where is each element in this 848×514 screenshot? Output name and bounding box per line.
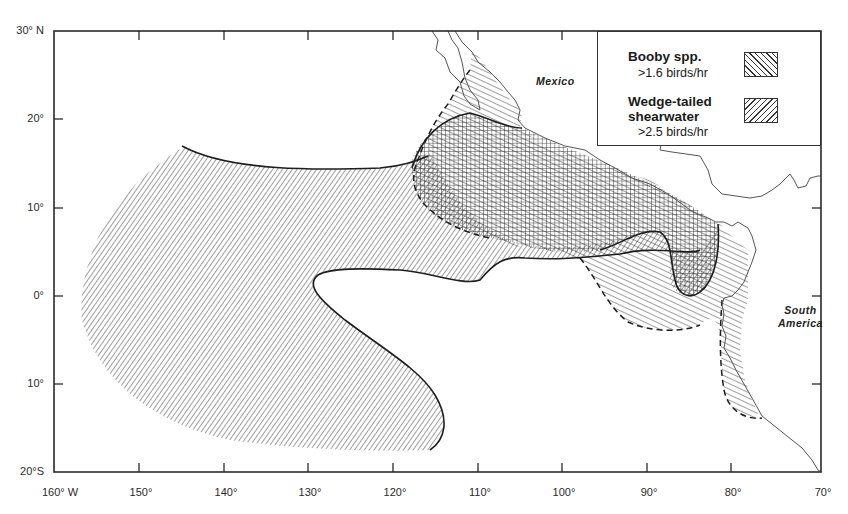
region-label-mexico: Mexico: [536, 75, 575, 88]
legend-shearwater-title-1: Wedge-tailed: [628, 94, 712, 109]
lon-label-100: 100°: [553, 486, 576, 498]
lon-label-80: 80°: [725, 486, 742, 498]
lon-label-140: 140°: [215, 486, 238, 498]
lon-label-70: 70°: [815, 486, 832, 498]
lat-label-10n: 10°: [0, 201, 44, 213]
lon-label-150: 150°: [130, 486, 153, 498]
lat-label-10s: 10°: [0, 377, 44, 389]
lon-label-130: 130°: [299, 486, 322, 498]
legend-booby-swatch: [744, 52, 778, 77]
legend-shearwater-swatch: [744, 98, 778, 123]
lon-label-110: 110°: [469, 486, 491, 498]
lat-label-30n: 30° N: [0, 24, 44, 36]
region-label-south-america: South America: [778, 304, 823, 330]
legend: Booby spp. >1.6 birds/hr Wedge-tailed sh…: [597, 31, 821, 146]
lon-label-120: 120°: [384, 486, 407, 498]
region-label-south-line1: South: [778, 304, 823, 317]
lat-label-0: 0°: [0, 289, 44, 301]
legend-booby-threshold: >1.6 birds/hr: [638, 66, 708, 80]
lat-label-20n: 20°: [0, 112, 44, 124]
region-label-south-line2: America: [778, 317, 823, 330]
lat-label-20s: 20°S: [0, 465, 44, 477]
legend-shearwater-threshold: >2.5 birds/hr: [638, 125, 708, 139]
lon-label-160w: 160° W: [42, 486, 78, 498]
legend-booby-title: Booby spp.: [628, 49, 702, 64]
lon-label-90: 90°: [641, 486, 658, 498]
legend-shearwater-title-2: shearwater: [628, 109, 699, 124]
